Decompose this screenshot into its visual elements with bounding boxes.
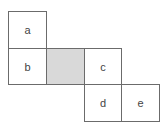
cell-d-label: d xyxy=(100,97,106,109)
cell-d: d xyxy=(84,84,122,122)
cell-c: c xyxy=(84,48,122,85)
cell-e-label: e xyxy=(137,97,143,109)
cell-c-label: c xyxy=(100,61,106,73)
cell-a: a xyxy=(8,11,47,49)
cell-e: e xyxy=(121,84,160,122)
cell-b: b xyxy=(8,48,47,85)
cell-b-label: b xyxy=(24,61,30,73)
cell-shaded xyxy=(46,48,85,85)
cell-a-label: a xyxy=(24,24,30,36)
